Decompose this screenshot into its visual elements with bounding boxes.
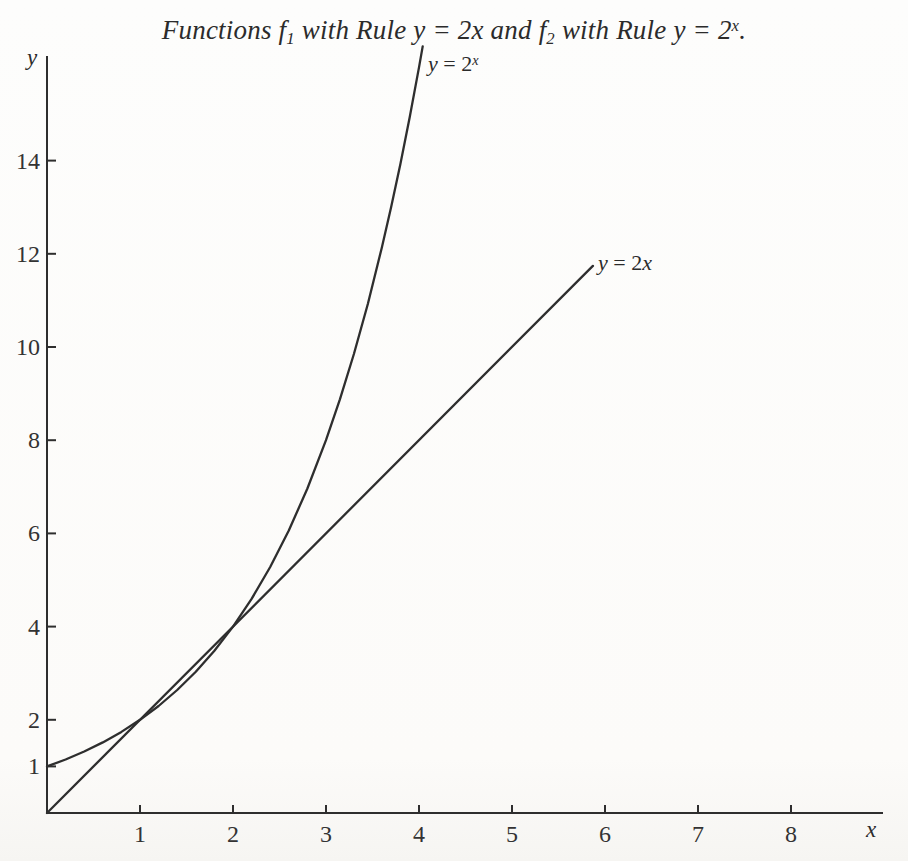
x-tick-label-4: 4 <box>400 821 438 847</box>
y-tick-label-2: 2 <box>2 707 40 733</box>
x-tick-label-5: 5 <box>493 821 531 847</box>
y-axis-label: y <box>27 46 37 70</box>
x-tick-label-2: 2 <box>214 821 252 847</box>
tick-marks <box>47 161 791 814</box>
curve-label-text: x <box>642 250 652 275</box>
curves <box>47 46 593 813</box>
x-axis-label: x <box>866 818 876 842</box>
y-tick-label-12: 12 <box>2 241 40 267</box>
x-tick-label-6: 6 <box>586 821 624 847</box>
y-tick-label-10: 10 <box>2 334 40 360</box>
y-tick-label-1: 1 <box>2 753 40 779</box>
y-tick-label-8: 8 <box>2 427 40 453</box>
curve-label-text: y <box>598 250 608 275</box>
x-tick-label-7: 7 <box>679 821 717 847</box>
curve-label-text: = 2 <box>608 250 642 275</box>
curve-label-text: = 2 <box>438 51 472 76</box>
figure-page: Functions f1 with Rule y = 2x and f2 wit… <box>0 0 908 861</box>
curve-label-exponential: y = 2x <box>428 47 479 77</box>
y-tick-label-6: 6 <box>2 520 40 546</box>
curve-f1 <box>47 266 593 813</box>
plot-canvas <box>0 0 908 861</box>
y-tick-label-4: 4 <box>2 614 40 640</box>
x-tick-label-1: 1 <box>121 821 159 847</box>
curve-label-text: y <box>428 51 438 76</box>
y-tick-label-14: 14 <box>2 148 40 174</box>
curve-label-linear: y = 2x <box>598 250 652 276</box>
curve-label-superscript-x: x <box>472 52 478 68</box>
x-tick-label-3: 3 <box>307 821 345 847</box>
curve-f2 <box>47 46 423 766</box>
x-tick-label-8: 8 <box>772 821 810 847</box>
